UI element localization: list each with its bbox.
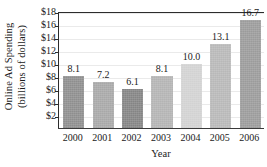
bar-value-label: 16.7: [236, 8, 265, 18]
bar-value-label: 7.2: [88, 70, 117, 80]
y-axis-tick-label: $6: [30, 85, 56, 95]
plot-area: 8.17.26.18.110.013.116.7: [58, 12, 264, 129]
bar-slot: 8.1: [59, 13, 88, 129]
bar-slot: 16.7: [236, 13, 265, 129]
x-axis-tick-label: 2005: [205, 132, 234, 143]
bar-slot: 8.1: [147, 13, 176, 129]
y-axis-title-line1: Online Ad Spending: [4, 22, 17, 110]
x-axis-tick-labels: 2000200120022003200420052006: [58, 132, 264, 146]
bar-value-label: 10.0: [177, 52, 206, 62]
x-axis-tick-label: 2004: [176, 132, 205, 143]
x-axis-tick-label: 2002: [117, 132, 146, 143]
y-axis-tick-label: $8: [30, 72, 56, 82]
x-axis-tick-label: 2006: [235, 132, 264, 143]
bar: [240, 20, 261, 129]
bar: [181, 64, 202, 129]
y-axis-tick-label: $10: [30, 59, 56, 69]
y-axis-title: Online Ad Spending (billions of dollars): [0, 0, 32, 132]
x-axis-tick-label: 2003: [146, 132, 175, 143]
y-axis-tick-labels: $2$4$6$8$10$12$14$16$18: [30, 0, 56, 132]
bar: [210, 44, 231, 129]
y-axis-title-line2: (billions of dollars): [16, 22, 29, 110]
bar-value-label: 8.1: [59, 64, 88, 74]
y-axis-tick-label: $12: [30, 46, 56, 56]
bar-value-label: 8.1: [147, 64, 176, 74]
x-axis-tick-label: 2001: [87, 132, 116, 143]
bar-slot: 7.2: [88, 13, 117, 129]
y-axis-tick-label: $2: [30, 111, 56, 121]
y-axis-tick-label: $18: [30, 7, 56, 17]
bar: [63, 76, 84, 129]
bar: [122, 89, 143, 129]
bar-slot: 13.1: [206, 13, 235, 129]
bar: [151, 76, 172, 129]
bar-slot: 10.0: [177, 13, 206, 129]
bar: [93, 82, 114, 129]
bar-value-label: 6.1: [118, 77, 147, 87]
bar-slot: 6.1: [118, 13, 147, 129]
x-axis-tick-label: 2000: [58, 132, 87, 143]
y-axis-tick-label: $4: [30, 98, 56, 108]
x-axis-title: Year: [58, 148, 264, 160]
y-axis-tick-label: $14: [30, 33, 56, 43]
bar-value-label: 13.1: [206, 32, 235, 42]
bar-series: 8.17.26.18.110.013.116.7: [59, 13, 264, 129]
x-axis-baseline: [58, 128, 264, 130]
bar-chart: Online Ad Spending (billions of dollars)…: [0, 0, 267, 167]
y-axis-tick-label: $16: [30, 20, 56, 30]
